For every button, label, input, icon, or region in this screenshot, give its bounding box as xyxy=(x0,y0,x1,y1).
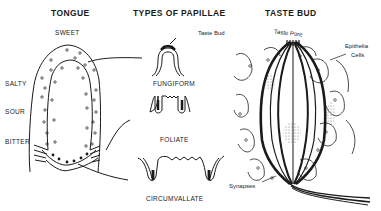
papillae-illustration xyxy=(138,38,224,181)
tongue-title: TONGUE xyxy=(51,9,90,18)
label-epithelia: Epithelia xyxy=(345,43,368,49)
label-sour: SOUR xyxy=(5,109,25,116)
label-synapses: Synapses xyxy=(229,183,255,189)
label-fungiform: FUNGIFORM xyxy=(153,81,195,88)
label-cells: Cells xyxy=(351,52,364,58)
label-foliate: FOLIATE xyxy=(160,137,189,144)
label-salty: SALTY xyxy=(5,81,27,88)
label-sweet: SWEET xyxy=(55,30,80,37)
label-bitter: BITTER xyxy=(5,139,30,146)
taste-bud-illustration xyxy=(234,40,370,205)
label-circumvallate: CIRCUMVALLATE xyxy=(146,196,203,203)
taste-diagram: TONGUE SWEET SALTY SOUR BITTER TYPES OF … xyxy=(0,0,381,211)
papillae-title: TYPES OF PAPILLAE xyxy=(133,9,226,18)
tastebud-title: TASTE BUD xyxy=(265,9,317,18)
label-taste-bud: Taste Bud xyxy=(198,30,225,36)
tongue-illustration xyxy=(29,45,142,180)
